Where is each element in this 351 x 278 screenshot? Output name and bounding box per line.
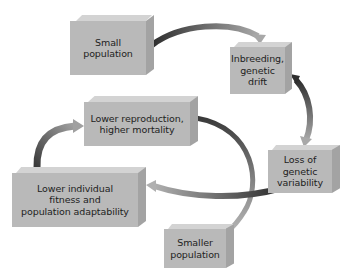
node-label-line: Loss of <box>277 154 323 166</box>
node-label-line: Small <box>83 37 133 49</box>
node-label-line: genetic <box>231 65 284 77</box>
node-lower-reproduction: Lower reproduction, higher mortality <box>84 96 198 148</box>
node-small-population: Small population <box>70 15 154 77</box>
node-lower-individual-fitness: Lower individual fitness and population … <box>12 167 146 229</box>
node-label-line: fitness and <box>21 194 129 206</box>
node-label-line: variability <box>277 177 323 189</box>
node-inbreeding: Inbreeding, genetic drift <box>230 42 292 96</box>
node-label-line: Inbreeding, <box>231 53 284 65</box>
arrow-lower-reproduction-to-smaller-population <box>196 118 253 240</box>
node-loss-of-genetic-variability: Loss of genetic variability <box>268 145 340 195</box>
node-label-line: population adaptability <box>21 206 129 218</box>
node-label-line: Lower individual <box>21 183 129 195</box>
node-label-line: population <box>83 48 133 60</box>
node-label-line: population <box>170 249 220 261</box>
arrow-lower-fitness-to-lower-reproduction <box>37 119 84 168</box>
diagram-canvas: Small population Inbreeding, genetic dri… <box>0 0 351 278</box>
node-label-line: drift <box>231 76 284 88</box>
node-label-line: genetic <box>277 166 323 178</box>
node-label-line: Smaller <box>170 237 220 249</box>
node-label-line: Lower reproduction, <box>90 113 183 125</box>
node-label-line: higher mortality <box>90 124 183 136</box>
arrow-inbreeding-to-loss <box>290 74 312 147</box>
arrow-loss-to-lower-fitness <box>146 180 282 196</box>
node-smaller-population: Smaller population <box>164 224 234 270</box>
